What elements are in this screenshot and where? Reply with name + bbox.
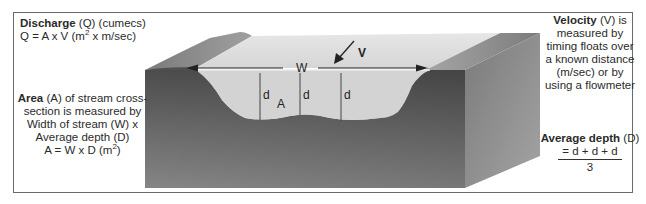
fraction-numerator: = d + d + d (558, 145, 621, 160)
fraction-denominator: 3 (558, 160, 621, 174)
discharge-label: Discharge (Q) (cumecs) Q = A x V (m2 x m… (20, 17, 146, 43)
velocity-description: Velocity (V) is measured by timing float… (542, 14, 638, 92)
width-label: W (296, 61, 308, 75)
average-depth-heading: Average depth (541, 132, 620, 144)
velocity-label: V (358, 46, 366, 60)
depth-label-1: d (263, 88, 270, 102)
velocity-heading: Velocity (553, 14, 596, 26)
discharge-heading: Discharge (20, 17, 76, 29)
discharge-formula: Q = A x V (m2 x m/sec) (20, 30, 146, 43)
depth-label-2: d (303, 88, 310, 102)
area-label: A (277, 97, 285, 111)
area-label: Area (A) of stream cross- section is mea… (10, 92, 155, 157)
average-depth-fraction: = d + d + d 3 (558, 145, 621, 174)
depth-label-3: d (344, 88, 351, 102)
area-heading: Area (18, 92, 44, 104)
area-formula: A = W x D (m2) (10, 144, 155, 157)
average-depth-label: Average depth (D) = d + d + d 3 (540, 132, 640, 174)
